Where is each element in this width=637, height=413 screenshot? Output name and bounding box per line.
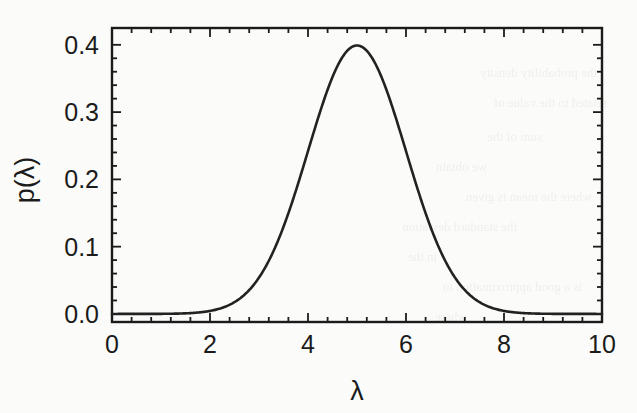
y-axis-tick-labels: 0.00.10.20.30.4 [64,31,99,328]
x-tick-label: 8 [497,330,511,358]
y-tick-label: 0.1 [64,233,99,261]
plot-frame [112,28,602,322]
y-tick-label: 0.2 [64,165,99,193]
density-curve [112,45,602,313]
x-tick-label: 2 [203,330,217,358]
x-axis-tick-labels: 0246810 [105,330,616,358]
x-tick-label: 0 [105,330,119,358]
axis-ticks [112,28,602,322]
gaussian-density-plot: 0246810 0.00.10.20.30.4 λ p(λ) [0,0,637,413]
x-tick-label: 4 [301,330,315,358]
y-tick-label: 0.3 [64,98,99,126]
x-axis-title: λ [350,376,364,406]
x-tick-label: 10 [588,330,616,358]
y-tick-label: 0.0 [64,300,99,328]
x-tick-label: 6 [399,330,413,358]
y-axis-title: p(λ) [10,157,40,204]
y-tick-label: 0.4 [64,31,99,59]
